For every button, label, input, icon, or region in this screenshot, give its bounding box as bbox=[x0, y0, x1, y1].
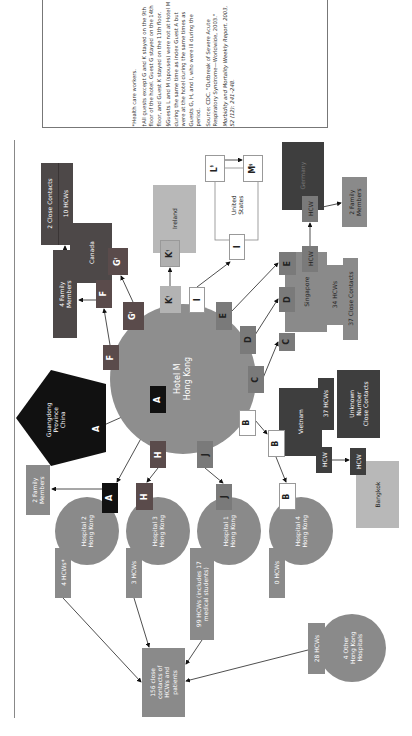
hub-line2: Hong Kong bbox=[183, 357, 193, 401]
us-guest-i: I bbox=[229, 234, 245, 260]
guangdong-line1: Guangdong bbox=[44, 403, 51, 438]
hospital-1-guest-j: J bbox=[216, 484, 232, 510]
hospital-1-hcws: 99 HCWs (includes 17medical students) bbox=[190, 548, 214, 640]
vietnam-hcws: 37 HCWs bbox=[318, 378, 334, 430]
singapore-close-contacts: 37 Close Contacts bbox=[343, 258, 358, 340]
guangdong-line2: Province bbox=[51, 403, 58, 438]
germany-hcw: HCW bbox=[302, 196, 318, 222]
canada-family-members: 4 FamilyMembers bbox=[53, 250, 77, 338]
hotel-guest-c: C bbox=[248, 366, 264, 393]
hotel-guest-g: G† bbox=[123, 302, 144, 330]
hospital-4-guest-b: B bbox=[279, 483, 296, 510]
hotel-guest-e: E bbox=[216, 302, 232, 330]
guangdong-label: Guangdong Province China bbox=[30, 385, 80, 455]
singapore-guest-d: D bbox=[279, 287, 295, 312]
hotel-guest-h: H bbox=[150, 441, 166, 468]
close-contacts-total: 156 closecontacts of HCWs andpatients bbox=[142, 648, 185, 717]
singapore-hcw: HCW bbox=[302, 246, 318, 272]
us-guest-l: L§ bbox=[205, 155, 225, 182]
germany-family-members: 2 FamilyMembers bbox=[342, 177, 367, 227]
hospital-3-hcws: 3 HCWs bbox=[126, 548, 142, 598]
canada-guest-g: G† bbox=[108, 248, 128, 275]
us-guest-m: M§ bbox=[243, 155, 263, 182]
singapore-hcws: 34 HCWs bbox=[327, 265, 343, 325]
hotel-guest-d: D bbox=[240, 326, 256, 354]
hub-line1: Hotel M bbox=[173, 357, 183, 401]
hospital-2-hcws: 4 HCWs* bbox=[55, 548, 71, 598]
singapore-guest-c: C bbox=[279, 333, 295, 351]
singapore-guest-e: E bbox=[279, 252, 296, 275]
vietnam-box: Vietnam bbox=[279, 388, 322, 456]
canada-guest-f: F bbox=[96, 280, 112, 308]
united-states-label: UnitedStates bbox=[222, 180, 252, 230]
hotel-guest-i: I bbox=[189, 287, 205, 313]
hospital-3-guest-h: H bbox=[136, 483, 153, 510]
vietnam-hcw: HCW bbox=[316, 447, 332, 473]
hotel-guest-b: B bbox=[239, 410, 256, 436]
bangkok-hcw: HCW bbox=[350, 448, 366, 475]
guangdong-guest-a: A bbox=[90, 415, 105, 443]
hotel-guest-a: A bbox=[150, 386, 166, 413]
other-hong-kong-hospitals: 4 OtherHong KongHospitals bbox=[318, 614, 386, 682]
vietnam-guest-b: B bbox=[268, 430, 285, 457]
guangdong-line3: China bbox=[59, 403, 66, 438]
ireland-guest-k: K† bbox=[160, 240, 180, 267]
hospital-2-guest-a: A bbox=[102, 483, 118, 513]
other-hospitals-hcws: 28 HCWs bbox=[308, 623, 325, 674]
family-members-left: 2 FamilyMembers bbox=[26, 465, 50, 515]
hospital-4-hcws: 0 HCWs bbox=[269, 548, 285, 598]
hotel-guest-j: J bbox=[197, 441, 213, 468]
hotel-guest-f: F bbox=[103, 345, 119, 370]
hotel-guest-k: K† bbox=[160, 286, 181, 313]
vietnam-unknown-contacts: UnknownNumberClose Contacts bbox=[337, 370, 380, 438]
canada-close-contacts: 2 Close Contacts bbox=[41, 163, 58, 245]
